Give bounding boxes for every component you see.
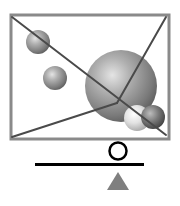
fulcrum-triangle-icon — [107, 172, 129, 190]
sphere-small-left — [43, 66, 67, 90]
sphere-small-top-left — [26, 30, 50, 54]
weight-circle-icon — [110, 143, 127, 160]
balance-diagram — [0, 0, 180, 206]
balance-scale — [35, 143, 144, 191]
